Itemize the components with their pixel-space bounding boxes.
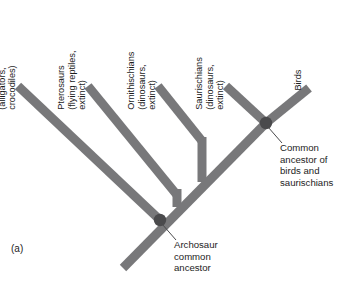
taxon-line: (dinosaurs,	[137, 52, 148, 110]
taxon-label-crocodilians: Crocodilians (alligators, crocodiles)	[0, 59, 18, 110]
annotation-birds-saurischians-ancestor: Common ancestor of birds and saurischian…	[280, 142, 333, 188]
taxon-line: Birds	[293, 70, 304, 91]
taxon-line: (flying reptiles,	[67, 51, 78, 110]
taxon-line: Pterosaurs	[56, 51, 67, 110]
taxon-line: Ornithischians	[126, 52, 137, 110]
annotation-line: ancestor	[174, 262, 218, 274]
taxon-label-saurischians: Saurischians (dinosaurs, extinct)	[194, 57, 226, 110]
taxon-line: Saurischians	[194, 57, 205, 110]
taxon-label-ornithischians: Ornithischians (dinosaurs, extinct)	[126, 52, 158, 110]
leader-line-group	[162, 127, 282, 240]
taxon-line: extinct)	[77, 51, 88, 110]
branch-birds	[266, 88, 309, 123]
panel-letter: (a)	[11, 243, 23, 254]
branch-saurischians	[226, 86, 266, 123]
taxon-label-birds: Birds	[293, 70, 304, 91]
branch-group	[18, 86, 309, 268]
leader-line-birds-saurischians	[268, 127, 282, 143]
taxon-line: (dinosaurs,	[205, 57, 216, 110]
annotation-line: Common	[280, 142, 333, 154]
taxon-line: crocodiles)	[7, 59, 18, 110]
annotation-line: birds and	[280, 165, 333, 177]
annotation-line: common	[174, 251, 218, 263]
annotation-archosaur-ancestor: Archosaur common ancestor	[174, 239, 218, 274]
figure-canvas: Crocodilians (alligators, crocodiles) Pt…	[0, 0, 342, 286]
node-archosaur-common-ancestor	[154, 214, 166, 226]
taxon-line: (alligators,	[0, 59, 7, 110]
taxon-line: extinct)	[147, 52, 158, 110]
node-birds-saurischians-ancestor	[260, 117, 272, 129]
annotation-line: ancestor of	[280, 154, 333, 166]
annotation-line: saurischians	[280, 177, 333, 189]
taxon-label-pterosaurs: Pterosaurs (flying reptiles, extinct)	[56, 51, 88, 110]
annotation-line: Archosaur	[174, 239, 218, 251]
taxon-line: extinct)	[215, 57, 226, 110]
